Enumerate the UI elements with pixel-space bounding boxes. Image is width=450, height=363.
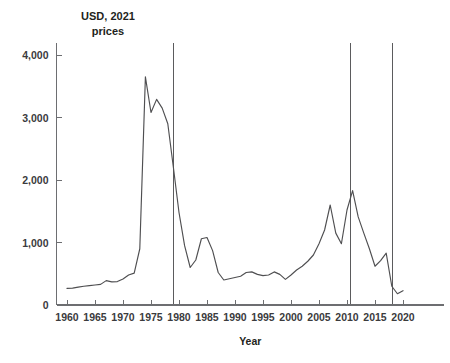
x-tick-label: 1960 [55,311,79,323]
x-tick-label: 1975 [139,311,163,323]
data-series-group [67,77,403,294]
line-chart: 01,0002,0003,0004,000 196019651970197519… [0,0,450,363]
vertical-reference-lines-group [173,43,392,305]
x-tick-label: 1970 [111,311,135,323]
y-tick-label: 0 [43,299,49,311]
axes-group [57,43,445,305]
x-tick-label: 1995 [251,311,275,323]
chart-canvas: 01,0002,0003,0004,000 196019651970197519… [0,0,450,363]
x-tick-label: 1985 [195,311,219,323]
x-axis-ticks-group: 1960196519701975198019851990199520002005… [55,300,415,323]
y-tick-label: 4,000 [22,49,48,61]
x-axis-title: Year [239,335,261,347]
x-tick-label: 2010 [335,311,359,323]
series-line-1 [67,77,403,294]
y-axis-ticks-group: 01,0002,0003,0004,000 [22,49,61,311]
x-tick-label: 2000 [279,311,303,323]
x-tick-label: 1990 [223,311,247,323]
y-tick-label: 3,000 [22,112,48,124]
y-tick-label: 2,000 [22,174,48,186]
x-tick-label: 2005 [307,311,331,323]
x-tick-label: 1980 [167,311,191,323]
x-tick-label: 2020 [391,311,415,323]
y-tick-label: 1,000 [22,237,48,249]
y-axis-unit-label-line2: prices [92,25,124,37]
x-tick-label: 2015 [363,311,387,323]
x-tick-label: 1965 [83,311,107,323]
y-axis-unit-label-line1: USD, 2021 [81,10,135,22]
